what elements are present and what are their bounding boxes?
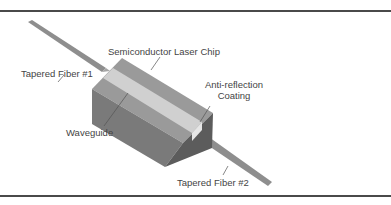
- laser-chip-diagram: [0, 0, 391, 205]
- label-anti-reflection: Anti-reflection: [193, 79, 275, 90]
- label-semiconductor-laser-chip: Semiconductor Laser Chip: [108, 46, 220, 57]
- label-waveguide: Waveguide: [66, 127, 113, 138]
- label-tapered-fiber-1: Tapered Fiber #1: [21, 68, 93, 79]
- leader-fiber2: [223, 166, 228, 175]
- label-coating: Coating: [193, 90, 275, 101]
- tapered-fiber-1: [28, 20, 106, 72]
- label-tapered-fiber-2: Tapered Fiber #2: [177, 177, 249, 188]
- leader-chip: [151, 57, 160, 70]
